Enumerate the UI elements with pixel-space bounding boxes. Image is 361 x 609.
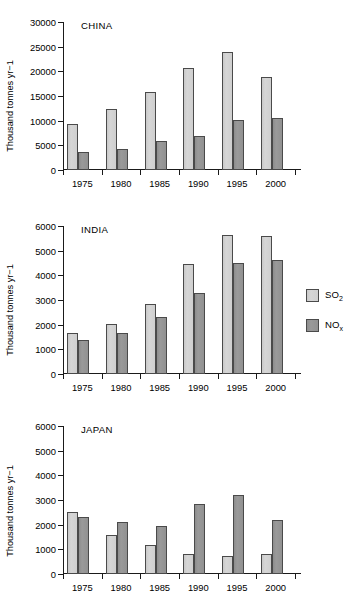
x-tick-mark [179, 574, 180, 579]
bar-so2-1975 [67, 333, 78, 374]
x-tick-mark [63, 374, 64, 379]
legend-item-nox: NOx [306, 318, 361, 332]
legend-item-so2: SO2 [306, 288, 361, 302]
bar-nox-1990 [194, 504, 205, 574]
x-tick-label: 1990 [188, 582, 209, 593]
y-tick-label: 5000 [12, 245, 56, 256]
y-tick-label: 25000 [12, 41, 56, 52]
y-tick-label: 5000 [12, 140, 56, 151]
bar-nox-1975 [78, 517, 89, 574]
bar-nox-1990 [194, 293, 205, 374]
x-tick-mark [63, 574, 64, 579]
x-tick-mark [218, 170, 219, 175]
y-tick-mark [58, 525, 63, 526]
x-tick-mark [256, 574, 257, 579]
y-axis-line-japan [63, 426, 64, 574]
panel-japan: Thousand tonnes yr−1 JAPAN 0100020003000… [0, 412, 361, 609]
y-tick-mark [58, 451, 63, 452]
bar-so2-1990 [183, 264, 194, 375]
plot-area-india: INDIA 0100020003000400050006000197519801… [63, 226, 295, 374]
x-tick-label: 1995 [227, 382, 248, 393]
x-tick-label: 2000 [265, 582, 286, 593]
x-tick-label: 1980 [111, 178, 132, 189]
x-tick-mark [295, 374, 296, 379]
panel-china: Thousand tonnes yr−1 CHINA 0500010000150… [0, 8, 361, 204]
bar-so2-1980 [106, 324, 117, 374]
x-tick-mark [140, 574, 141, 579]
y-tick-label: 5000 [12, 445, 56, 456]
y-axis-line-india [63, 226, 64, 374]
legend-label-so2: SO2 [325, 289, 343, 302]
legend-label-so2-text: SO [325, 289, 339, 300]
bar-nox-1985 [156, 526, 167, 574]
bar-so2-1995 [222, 52, 233, 170]
bar-so2-1975 [67, 124, 78, 170]
x-tick-label: 2000 [265, 382, 286, 393]
x-tick-mark [256, 170, 257, 175]
x-tick-mark [256, 374, 257, 379]
y-tick-mark [58, 500, 63, 501]
x-tick-mark [102, 574, 103, 579]
bar-so2-1980 [106, 535, 117, 574]
x-tick-mark [102, 374, 103, 379]
y-tick-label: 15000 [12, 91, 56, 102]
y-tick-mark [58, 475, 63, 476]
y-tick-mark [58, 145, 63, 146]
y-tick-label: 6000 [12, 421, 56, 432]
bar-so2-2000 [261, 77, 272, 170]
y-tick-label: 4000 [12, 470, 56, 481]
legend-swatch-nox [306, 319, 319, 332]
y-tick-mark [58, 22, 63, 23]
bar-so2-1995 [222, 556, 233, 574]
legend-label-nox-text: NO [325, 319, 339, 330]
x-tick-mark [295, 170, 296, 175]
y-tick-label: 3000 [12, 495, 56, 506]
bar-nox-1995 [233, 263, 244, 374]
bar-so2-1975 [67, 512, 78, 574]
bar-so2-1985 [145, 304, 156, 374]
y-tick-mark [58, 300, 63, 301]
bar-nox-2000 [272, 260, 283, 374]
y-axis-line-china [63, 22, 64, 170]
x-tick-mark [140, 374, 141, 379]
bar-nox-1995 [233, 495, 244, 574]
y-tick-label: 1000 [12, 344, 56, 355]
bar-nox-1985 [156, 317, 167, 374]
x-tick-mark [179, 170, 180, 175]
y-tick-label: 20000 [12, 66, 56, 77]
bar-so2-2000 [261, 236, 272, 374]
y-tick-label: 1000 [12, 544, 56, 555]
y-tick-mark [58, 226, 63, 227]
x-tick-label: 1990 [188, 178, 209, 189]
bar-so2-1990 [183, 554, 194, 574]
bar-nox-1975 [78, 152, 89, 170]
bar-nox-2000 [272, 520, 283, 574]
x-tick-label: 1980 [111, 582, 132, 593]
y-tick-label: 30000 [12, 17, 56, 28]
y-tick-mark [58, 121, 63, 122]
y-tick-label: 10000 [12, 115, 56, 126]
bar-nox-1985 [156, 141, 167, 170]
legend-label-nox: NOx [325, 319, 343, 332]
x-tick-mark [179, 374, 180, 379]
legend-label-so2-sub: 2 [339, 294, 343, 301]
bar-so2-1995 [222, 235, 233, 374]
x-tick-label: 1975 [72, 582, 93, 593]
bar-so2-2000 [261, 554, 272, 574]
bar-so2-1985 [145, 545, 156, 574]
bar-nox-1980 [117, 149, 128, 170]
x-tick-mark [218, 574, 219, 579]
x-tick-label: 1975 [72, 178, 93, 189]
bar-nox-1990 [194, 136, 205, 170]
bar-so2-1980 [106, 109, 117, 170]
plot-area-china: CHINA 0500010000150002000025000300001975… [63, 22, 295, 170]
x-tick-label: 1985 [149, 582, 170, 593]
x-tick-label: 2000 [265, 178, 286, 189]
x-tick-label: 1995 [227, 582, 248, 593]
panel-title-japan: JAPAN [81, 424, 113, 435]
y-tick-label: 3000 [12, 295, 56, 306]
y-tick-label: 2000 [12, 519, 56, 530]
x-tick-mark [63, 170, 64, 175]
y-tick-label: 6000 [12, 221, 56, 232]
bar-nox-1980 [117, 522, 128, 574]
